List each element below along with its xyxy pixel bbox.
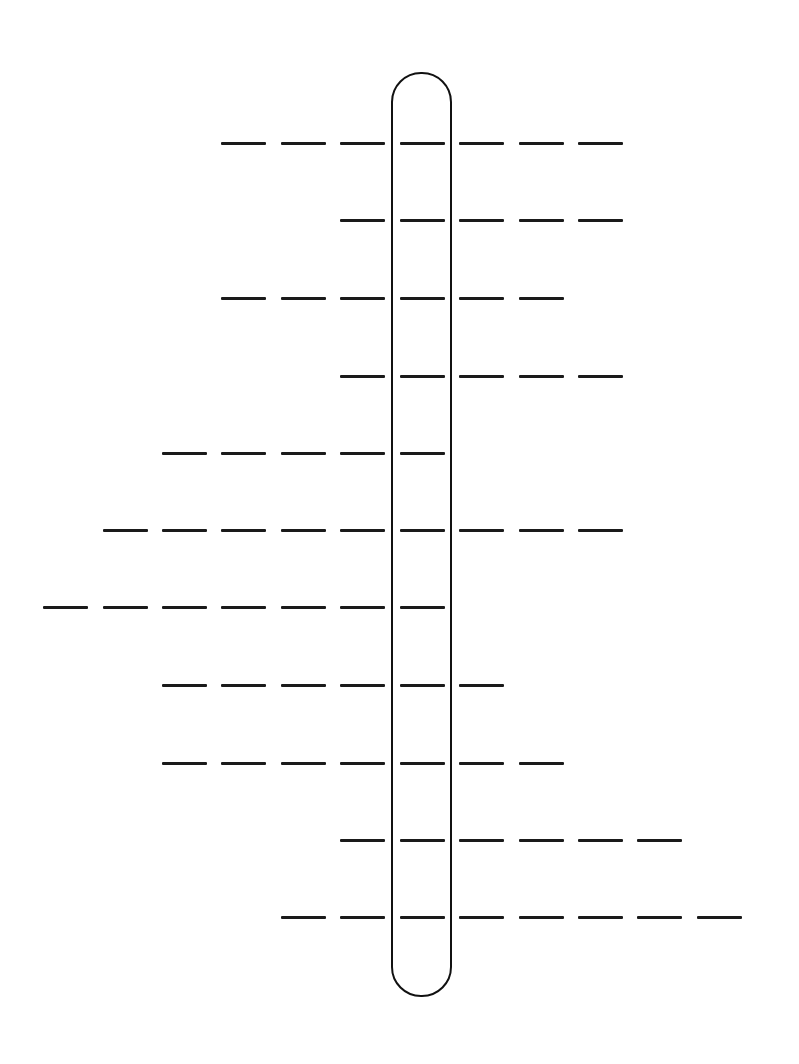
letter-blank — [340, 529, 385, 532]
letter-blank-highlighted — [400, 839, 445, 842]
highlighted-vertical-word-capsule — [391, 72, 452, 997]
puzzle-row-8 — [0, 684, 799, 688]
letter-blank — [281, 529, 326, 532]
letter-blank — [281, 684, 326, 687]
letter-blank — [340, 684, 385, 687]
letter-blank-highlighted — [400, 452, 445, 455]
letter-blank — [578, 529, 623, 532]
letter-blank — [162, 606, 207, 609]
letter-blank — [340, 297, 385, 300]
letter-blank — [221, 529, 266, 532]
letter-blank — [578, 916, 623, 919]
letter-blank — [43, 606, 88, 609]
letter-blank — [221, 762, 266, 765]
letter-blank — [459, 219, 504, 222]
letter-blank — [519, 297, 564, 300]
puzzle-row-7 — [0, 606, 799, 610]
puzzle-row-4 — [0, 375, 799, 379]
letter-blank-highlighted — [400, 219, 445, 222]
letter-blank — [281, 452, 326, 455]
letter-blank — [697, 916, 742, 919]
letter-blank — [459, 684, 504, 687]
puzzle-row-11 — [0, 916, 799, 920]
letter-blank — [340, 375, 385, 378]
letter-blank — [340, 142, 385, 145]
letter-blank-highlighted — [400, 762, 445, 765]
letter-blank — [221, 684, 266, 687]
letter-blank — [340, 916, 385, 919]
letter-blank — [519, 916, 564, 919]
letter-blank — [281, 606, 326, 609]
letter-blank — [578, 375, 623, 378]
letter-blank-highlighted — [400, 916, 445, 919]
letter-blank — [637, 839, 682, 842]
letter-blank — [459, 297, 504, 300]
letter-blank — [281, 762, 326, 765]
letter-blank — [340, 839, 385, 842]
letter-blank — [459, 142, 504, 145]
letter-blank-highlighted — [400, 606, 445, 609]
letter-blank — [221, 606, 266, 609]
puzzle-row-3 — [0, 297, 799, 301]
letter-blank — [340, 762, 385, 765]
letter-blank — [459, 839, 504, 842]
letter-blank — [578, 142, 623, 145]
letter-blank — [162, 762, 207, 765]
letter-blank — [578, 839, 623, 842]
letter-blank — [281, 142, 326, 145]
letter-blank-highlighted — [400, 529, 445, 532]
puzzle-row-5 — [0, 452, 799, 456]
letter-blank — [459, 916, 504, 919]
letter-blank — [281, 297, 326, 300]
puzzle-row-9 — [0, 762, 799, 766]
letter-blank — [519, 219, 564, 222]
puzzle-row-10 — [0, 839, 799, 843]
letter-blank — [519, 375, 564, 378]
letter-blank — [162, 684, 207, 687]
letter-blank — [519, 839, 564, 842]
word-puzzle-diagram — [0, 0, 799, 1064]
letter-blank — [340, 606, 385, 609]
letter-blank — [281, 916, 326, 919]
letter-blank — [103, 529, 148, 532]
letter-blank — [459, 375, 504, 378]
puzzle-row-6 — [0, 529, 799, 533]
letter-blank-highlighted — [400, 684, 445, 687]
letter-blank — [162, 452, 207, 455]
letter-blank — [162, 529, 207, 532]
letter-blank — [459, 529, 504, 532]
letter-blank — [221, 452, 266, 455]
letter-blank-highlighted — [400, 297, 445, 300]
letter-blank — [519, 762, 564, 765]
puzzle-row-1 — [0, 142, 799, 146]
letter-blank — [578, 219, 623, 222]
puzzle-row-2 — [0, 219, 799, 223]
letter-blank-highlighted — [400, 375, 445, 378]
letter-blank-highlighted — [400, 142, 445, 145]
letter-blank — [519, 142, 564, 145]
letter-blank — [637, 916, 682, 919]
letter-blank — [221, 297, 266, 300]
letter-blank — [519, 529, 564, 532]
letter-blank — [340, 219, 385, 222]
letter-blank — [103, 606, 148, 609]
letter-blank — [340, 452, 385, 455]
letter-blank — [221, 142, 266, 145]
letter-blank — [459, 762, 504, 765]
